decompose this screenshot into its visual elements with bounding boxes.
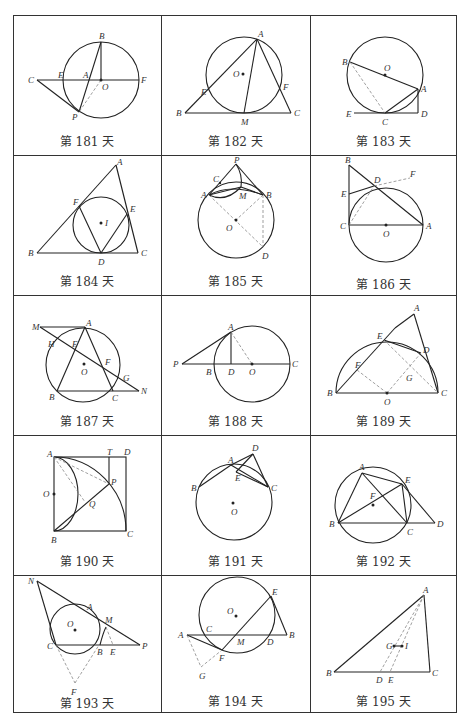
svg-text:A: A <box>257 29 264 39</box>
svg-text:F: F <box>140 75 147 85</box>
cell-day-183: BOA ECD 第 183 天 <box>310 15 457 155</box>
svg-text:P: P <box>141 641 148 651</box>
svg-text:C: C <box>206 624 213 634</box>
day-caption: 第 191 天 <box>161 552 310 569</box>
svg-text:A: A <box>86 602 93 612</box>
svg-text:O: O <box>384 63 391 73</box>
svg-text:F: F <box>354 360 361 370</box>
svg-text:O: O <box>383 229 390 239</box>
svg-text:P: P <box>172 359 179 369</box>
svg-text:F: F <box>409 169 416 179</box>
svg-text:A: A <box>177 630 184 640</box>
svg-text:B: B <box>97 647 103 657</box>
svg-text:E: E <box>345 109 352 119</box>
svg-text:M: M <box>236 637 245 647</box>
svg-text:D: D <box>375 675 383 685</box>
svg-text:A: A <box>46 449 53 459</box>
svg-text:D: D <box>436 519 444 529</box>
svg-text:M: M <box>240 117 249 127</box>
day-caption: 第 189 天 <box>310 412 457 429</box>
svg-text:O: O <box>249 367 256 377</box>
svg-text:D: D <box>373 175 381 185</box>
svg-text:A: A <box>420 84 427 94</box>
svg-text:Q: Q <box>89 499 96 509</box>
day-caption: 第 195 天 <box>310 692 457 709</box>
svg-text:C: C <box>141 248 148 258</box>
svg-text:O: O <box>43 489 50 499</box>
svg-text:O: O <box>227 606 234 616</box>
cell-day-181: BCE AOFP 第 181 天 <box>13 15 161 155</box>
svg-text:D: D <box>97 257 105 267</box>
svg-text:A: A <box>413 303 420 313</box>
svg-text:B: B <box>206 367 212 377</box>
svg-text:N: N <box>140 386 148 396</box>
svg-text:T: T <box>107 447 113 457</box>
svg-text:O: O <box>231 507 238 517</box>
svg-text:E: E <box>404 475 411 485</box>
svg-text:D: D <box>422 345 430 355</box>
day-caption: 第 185 天 <box>161 272 310 289</box>
svg-text:A: A <box>358 462 365 472</box>
svg-text:D: D <box>123 447 131 457</box>
svg-text:E: E <box>200 87 207 97</box>
svg-text:C: C <box>407 527 414 537</box>
svg-text:A: A <box>82 70 89 80</box>
day-caption: 第 188 天 <box>161 412 310 429</box>
geometry-figure-193: NAM OCB EPF <box>13 575 161 713</box>
svg-text:B: B <box>327 388 333 398</box>
svg-text:G: G <box>406 373 413 383</box>
svg-text:A: A <box>425 221 432 231</box>
svg-text:C: C <box>271 483 278 493</box>
svg-text:E: E <box>57 70 64 80</box>
svg-text:B: B <box>191 483 197 493</box>
svg-text:C: C <box>441 388 448 398</box>
cell-day-188: APB DOC 第 188 天 <box>161 295 310 435</box>
svg-text:E: E <box>271 587 278 597</box>
svg-text:P: P <box>233 155 240 165</box>
svg-text:C: C <box>292 359 299 369</box>
svg-text:B: B <box>28 248 34 258</box>
svg-text:I: I <box>404 641 409 651</box>
svg-text:A: A <box>116 157 123 167</box>
cell-day-186: BDF ECOA 第 186 天 <box>310 155 457 295</box>
geometry-figure-186: BDF ECOA <box>310 155 457 295</box>
day-caption: 第 182 天 <box>161 132 310 149</box>
svg-text:B: B <box>99 31 105 41</box>
svg-text:C: C <box>112 393 119 403</box>
cell-day-187: MAH EOF GBCN 第 187 天 <box>13 295 161 435</box>
svg-text:M: M <box>104 615 113 625</box>
svg-text:B: B <box>49 392 55 402</box>
svg-text:F: F <box>369 491 376 501</box>
svg-text:B: B <box>345 155 351 165</box>
day-caption: 第 186 天 <box>310 275 457 292</box>
cell-day-182: AOE FBMC 第 182 天 <box>161 15 310 155</box>
day-caption: 第 190 天 <box>13 552 161 569</box>
cell-day-194: EOA CMD BFG 第 194 天 <box>161 575 310 713</box>
svg-text:C: C <box>294 108 301 118</box>
svg-text:C: C <box>432 668 439 678</box>
day-caption: 第 183 天 <box>310 132 457 149</box>
svg-text:G: G <box>123 373 130 383</box>
svg-text:E: E <box>234 473 241 483</box>
svg-text:E: E <box>71 339 78 349</box>
svg-text:G: G <box>199 671 206 681</box>
day-caption: 第 194 天 <box>161 692 310 709</box>
svg-text:D: D <box>251 443 259 453</box>
svg-text:D: D <box>266 637 274 647</box>
cell-day-184: AFI EBDC 第 184 天 <box>13 155 161 295</box>
svg-text:E: E <box>340 189 347 199</box>
svg-text:H: H <box>47 339 55 349</box>
svg-text:B: B <box>266 190 272 200</box>
svg-text:A: A <box>227 455 234 465</box>
svg-text:F: F <box>104 357 111 367</box>
svg-text:E: E <box>109 647 116 657</box>
svg-text:O: O <box>67 619 74 629</box>
cell-day-192: AEF BCD 第 192 天 <box>310 435 457 575</box>
svg-text:B: B <box>329 519 335 529</box>
svg-text:D: D <box>227 367 235 377</box>
day-caption: 第 193 天 <box>13 694 161 711</box>
svg-text:F: F <box>218 653 225 663</box>
svg-text:E: E <box>376 331 383 341</box>
svg-text:O: O <box>384 397 391 407</box>
day-caption: 第 187 天 <box>13 412 161 429</box>
